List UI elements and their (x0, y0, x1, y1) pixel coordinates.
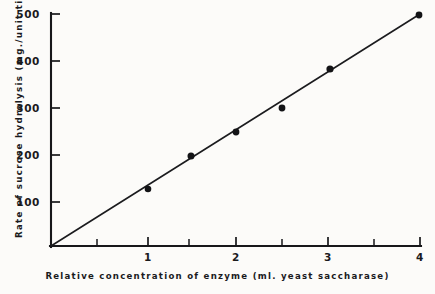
x-tick-label-3: 3 (317, 252, 339, 263)
y-axis-title: Rate of sucrose hydrolysis (mg./unit tim… (15, 0, 24, 238)
data-point (233, 129, 240, 136)
y-axis-ticks (51, 14, 60, 202)
data-point (279, 105, 286, 112)
data-point (188, 153, 195, 160)
data-point (145, 186, 152, 193)
data-point (326, 65, 333, 72)
y-axis-title-container: Rate of sucrose hydrolysis (mg./unit tim… (0, 0, 22, 250)
x-axis-title: Relative concentration of enzyme (ml. ye… (0, 272, 435, 281)
plot-canvas (0, 0, 435, 294)
x-tick-label-4: 4 (409, 252, 431, 263)
figure-sucrose-hydrolysis-plot: 500 400 300 200 100 1 2 3 4 Rate of sucr… (0, 0, 435, 294)
data-point (416, 12, 423, 19)
x-axis-ticks (97, 237, 420, 246)
x-tick-label-2: 2 (225, 252, 247, 263)
x-tick-label-1: 1 (137, 252, 159, 263)
